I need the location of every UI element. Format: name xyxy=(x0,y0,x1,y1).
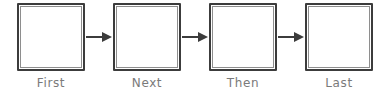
flow-node-first[interactable]: First xyxy=(17,3,85,90)
sequence-diagram: First Next Then xyxy=(0,0,390,101)
flow-node-then[interactable]: Then xyxy=(209,3,277,90)
arrow-right-icon xyxy=(85,30,113,44)
flow-node-last[interactable]: Last xyxy=(305,3,373,90)
connector-next-to-then xyxy=(181,3,209,71)
flow-box[interactable] xyxy=(209,3,277,71)
arrow-right-icon xyxy=(181,30,209,44)
flow-box[interactable] xyxy=(305,3,373,71)
flow-node-next[interactable]: Next xyxy=(113,3,181,90)
connector-first-to-next xyxy=(85,3,113,71)
flow-box[interactable] xyxy=(17,3,85,71)
sequence-row: First Next Then xyxy=(17,3,373,90)
flow-node-label: Last xyxy=(325,76,352,90)
flow-box[interactable] xyxy=(113,3,181,71)
flow-node-label: First xyxy=(37,76,65,90)
connector-then-to-last xyxy=(277,3,305,71)
flow-node-label: Then xyxy=(227,76,259,90)
arrow-right-icon xyxy=(277,30,305,44)
flow-node-label: Next xyxy=(132,76,162,90)
